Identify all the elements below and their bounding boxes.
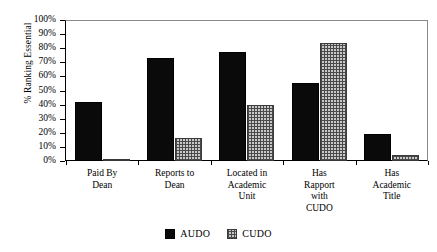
x-axis-tick-label-line: Has bbox=[356, 168, 428, 180]
x-axis-tick-label-line: Reports to bbox=[138, 168, 210, 180]
x-axis-tick-label: Reports toDean bbox=[138, 168, 210, 191]
x-axis-tick bbox=[138, 161, 139, 165]
bar-group bbox=[66, 20, 138, 161]
legend-label: AUDO bbox=[180, 228, 210, 239]
x-axis-tick-labels: Paid ByDeanReports toDeanLocated inAcade… bbox=[66, 168, 428, 224]
x-axis-tick-label-line: Has bbox=[283, 168, 355, 180]
x-axis-tick-label-line: Paid By bbox=[66, 168, 138, 180]
chart-legend: AUDOCUDO bbox=[0, 228, 437, 239]
y-axis-tick-label: 70% bbox=[39, 58, 56, 68]
y-axis-tick-labels: 100%90%80%70%60%50%40%30%20%10%0% bbox=[0, 20, 65, 161]
x-axis-tick-label-line: with bbox=[283, 191, 355, 203]
bar-group bbox=[211, 20, 283, 161]
bar-cudo-4 bbox=[320, 43, 347, 161]
bar-audo-1 bbox=[75, 102, 102, 161]
bar-group bbox=[138, 20, 210, 161]
bar-audo-5 bbox=[364, 134, 391, 161]
x-axis-ticks bbox=[66, 161, 428, 166]
bar-group bbox=[283, 20, 355, 161]
x-axis-tick-label-line: Academic bbox=[356, 180, 428, 192]
x-axis-tick bbox=[283, 161, 284, 165]
x-axis-tick-label: Paid ByDean bbox=[66, 168, 138, 191]
legend-item-cudo[interactable]: CUDO bbox=[227, 228, 272, 239]
x-axis-tick bbox=[428, 161, 429, 165]
legend-label: CUDO bbox=[242, 228, 272, 239]
bar-audo-4 bbox=[292, 83, 319, 161]
bar-cudo-2 bbox=[175, 138, 202, 161]
y-axis-tick-label: 100% bbox=[34, 15, 56, 25]
x-axis-tick-label-line: Unit bbox=[211, 191, 283, 203]
y-axis-tick-label: 40% bbox=[39, 100, 56, 110]
x-axis-tick bbox=[211, 161, 212, 165]
solid-black-swatch bbox=[165, 229, 175, 239]
x-axis-tick-label-line: CUDO bbox=[283, 203, 355, 215]
bar-audo-2 bbox=[147, 58, 174, 161]
x-axis-tick-label: HasRapportwithCUDO bbox=[283, 168, 355, 214]
cross-hatch-swatch bbox=[227, 229, 237, 239]
x-axis-tick-label-line: Rapport bbox=[283, 180, 355, 192]
x-axis-tick bbox=[66, 161, 67, 165]
x-axis-tick-label-line: Located in bbox=[211, 168, 283, 180]
x-axis-tick-label-line: Title bbox=[356, 191, 428, 203]
bar-audo-3 bbox=[219, 52, 246, 161]
x-axis-tick-label-line: Dean bbox=[66, 180, 138, 192]
x-axis-tick-label-line: Dean bbox=[138, 180, 210, 192]
legend-item-audo[interactable]: AUDO bbox=[165, 228, 210, 239]
x-axis-tick-label: HasAcademicTitle bbox=[356, 168, 428, 203]
y-axis-tick-label: 20% bbox=[39, 128, 56, 138]
x-axis-tick-label-line: Academic bbox=[211, 180, 283, 192]
bar-chart: % Ranking Essential 100%90%80%70%60%50%4… bbox=[0, 0, 437, 252]
bar-group bbox=[356, 20, 428, 161]
bar-cudo-3 bbox=[247, 105, 274, 161]
bars-layer bbox=[66, 20, 428, 161]
y-axis-tick-label: 60% bbox=[39, 72, 56, 82]
x-axis-tick bbox=[356, 161, 357, 165]
x-axis-tick-label: Located inAcademicUnit bbox=[211, 168, 283, 203]
y-axis-tick bbox=[60, 161, 65, 162]
y-axis-tick-label: 80% bbox=[39, 43, 56, 53]
y-axis-tick-label: 50% bbox=[39, 86, 56, 96]
y-axis-tick-label: 90% bbox=[39, 29, 56, 39]
y-axis-tick-label: 10% bbox=[39, 142, 56, 152]
y-axis-tick-label: 30% bbox=[39, 114, 56, 124]
y-axis-tick-label: 0% bbox=[43, 156, 56, 166]
